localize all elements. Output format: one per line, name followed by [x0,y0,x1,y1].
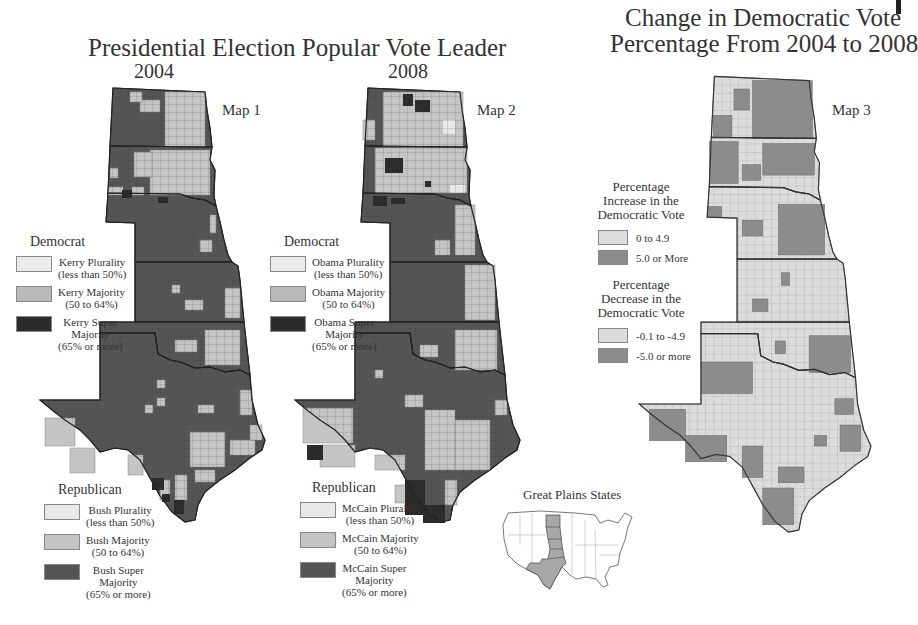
legend-swatch [16,256,52,272]
legend-label: McCain Super [342,562,407,574]
legend-swatch [598,348,628,363]
legend-sublabel: (65% or more) [312,340,377,352]
legend-label: Obama Plurality [312,256,384,268]
legend-swatch [44,564,80,580]
legend-label: Kerry Plurality [58,256,126,268]
legend-sublabel: (65% or more) [86,588,151,600]
legend-heading: Democrat [16,236,141,248]
legend-swatch [598,250,628,265]
legend-sublabel: (65% or more) [58,340,123,352]
legend-label: Obama Majority [312,286,385,298]
legend-item: Kerry SuperMajority(65% or more) [16,316,141,352]
legend-item: Obama Plurality(less than 50%) [270,256,395,280]
legend-label: 0 to 4.9 [636,232,669,244]
legend-item: McCain Plurality(less than 50%) [300,502,430,526]
legend-sublabel: (less than 50%) [86,516,154,528]
legend-label: 5.0 or More [636,252,688,264]
legend-sublabel: (50 to 64%) [58,298,125,310]
legend-sublabel: (less than 50%) [58,268,126,280]
map3-increase-legend: Percentage Increase in the Democratic Vo… [586,180,696,270]
legend-swatch [270,286,306,302]
legend-item: Obama SuperMajority(65% or more) [270,316,395,352]
legend-swatch [300,502,336,518]
legend-swatch [16,286,52,302]
legend-item: Bush Majority(50 to 64%) [44,534,169,558]
legend-swatch [598,328,628,343]
legend-heading: Democrat [270,236,395,248]
legend-label: McCain Majority [342,532,419,544]
legend-label: Bush Super [86,564,151,576]
legend-heading: Percentage Increase in the Democratic Vo… [586,180,696,222]
legend-item: 0 to 4.9 [586,230,696,245]
legend-item: Bush Plurality(less than 50%) [44,504,169,528]
legend-swatch [16,316,52,332]
legend-sublabel: (less than 50%) [312,268,384,280]
legend-sublabel: (65% or more) [342,586,407,598]
legend-item: Obama Majority(50 to 64%) [270,286,395,310]
legend-item: 5.0 or More [586,250,696,265]
legend-label: Obama Super [312,316,377,328]
legend-item: Bush SuperMajority(65% or more) [44,564,169,600]
legend-item: -0.1 to -4.9 [586,328,696,343]
legend-label: Kerry Super [58,316,123,328]
map2-republican-legend: Republican McCain Plurality(less than 50… [300,482,430,604]
map-1-label: Map 1 [222,102,261,119]
legend-item: McCain SuperMajority(65% or more) [300,562,430,598]
legend-swatch [270,256,306,272]
map3-decrease-legend: Percentage Decrease in the Democratic Vo… [586,278,696,368]
legend-sublabel: (50 to 64%) [312,298,385,310]
legend-swatch [300,532,336,548]
legend-heading: Republican [300,482,430,494]
legend-label: Kerry Majority [58,286,125,298]
legend-label: McCain Plurality [342,502,418,514]
legend-swatch [598,230,628,245]
legend-label: -5.0 or more [636,350,691,362]
legend-item: Kerry Plurality(less than 50%) [16,256,141,280]
legend-swatch [44,504,80,520]
map1-republican-legend: Republican Bush Plurality(less than 50%)… [44,484,169,606]
legend-swatch [270,316,306,332]
legend-label: Bush Majority [86,534,150,546]
map2-democrat-legend: Democrat Obama Plurality(less than 50%) … [270,236,395,358]
inset-title: Great Plains States [523,487,621,503]
map-3-label: Map 3 [832,102,871,119]
legend-sublabel: Majority [86,576,151,588]
legend-item: McCain Majority(50 to 64%) [300,532,430,556]
legend-swatch [300,562,336,578]
legend-heading: Republican [44,484,169,496]
legend-heading: Percentage Decrease in the Democratic Vo… [586,278,696,320]
legend-sublabel: (50 to 64%) [86,546,150,558]
legend-swatch [44,534,80,550]
legend-sublabel: Majority [312,328,377,340]
map1-democrat-legend: Democrat Kerry Plurality(less than 50%) … [16,236,141,358]
legend-sublabel: (50 to 64%) [342,544,419,556]
legend-sublabel: (less than 50%) [342,514,418,526]
legend-sublabel: Majority [342,574,407,586]
legend-item: Kerry Majority(50 to 64%) [16,286,141,310]
inset-us-map [503,511,632,589]
legend-label: Bush Plurality [86,504,154,516]
legend-sublabel: Majority [58,328,123,340]
map-2-label: Map 2 [477,102,516,119]
legend-label: -0.1 to -4.9 [636,330,685,342]
legend-item: -5.0 or more [586,348,696,363]
